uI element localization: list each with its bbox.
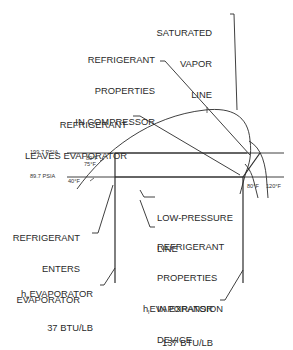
label-line: REFRIGERANT bbox=[5, 233, 80, 243]
label-line: PROPERTIES bbox=[157, 273, 247, 283]
h-e-line: heEVAPORATOR bbox=[5, 289, 93, 302]
h-e-evaporator-label: heEVAPORATOR 37 BTU/LB bbox=[5, 268, 93, 350]
label-line: PROPERTIES bbox=[60, 86, 155, 96]
label-line: LEAVES EVAPORATOR bbox=[10, 151, 127, 161]
h-l-line: hlEVAPORATOR bbox=[125, 304, 213, 317]
high-pressure-label: 199.7 PSIA bbox=[30, 149, 58, 155]
h-name: EVAPORATOR bbox=[149, 303, 213, 314]
temp-40: 40°F bbox=[68, 178, 80, 184]
label-line: REFRIGERANT bbox=[157, 242, 247, 252]
h-e-value: 37 BTU/LB bbox=[5, 323, 93, 333]
isotherm-120 bbox=[249, 141, 268, 198]
h-l-evaporator-label: hlEVAPORATOR 137 BTU/LB bbox=[125, 283, 213, 350]
h-l-value: 137 BTU/LB bbox=[125, 338, 213, 348]
temp-75: 75°F bbox=[84, 161, 96, 167]
temp-120: 120°F bbox=[266, 183, 281, 189]
leaves-evaporator-label: REFRIGERANT LEAVES EVAPORATOR bbox=[10, 99, 127, 182]
label-line: REFRIGERANT bbox=[60, 55, 155, 65]
low-pressure-label: 89.7 PSIA bbox=[30, 173, 55, 179]
temp-80-right: 80°F bbox=[247, 183, 259, 189]
h-name: EVAPORATOR bbox=[29, 288, 93, 299]
label-line: REFRIGERANT bbox=[10, 120, 127, 130]
